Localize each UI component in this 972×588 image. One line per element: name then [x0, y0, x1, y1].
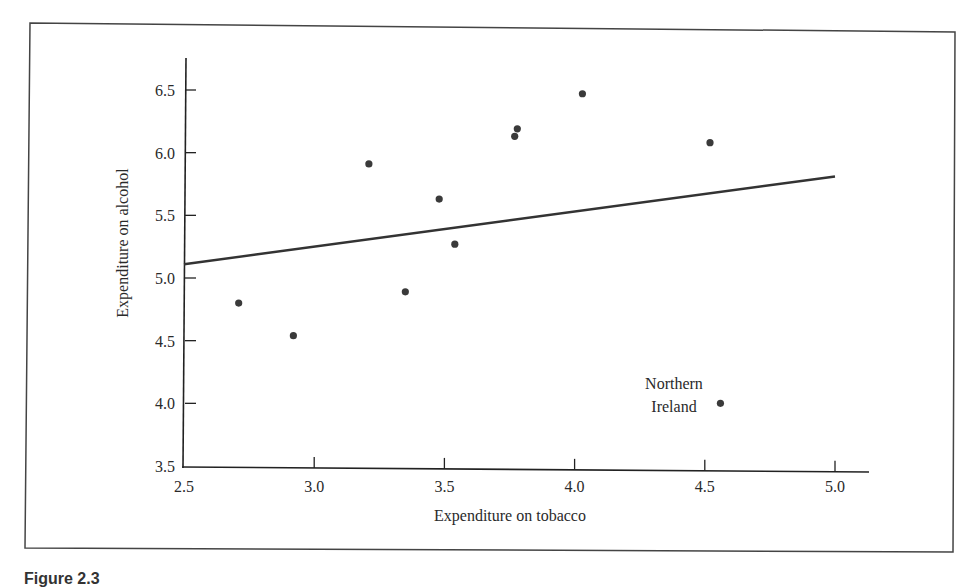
data-point [436, 195, 443, 202]
annotation-ireland: Ireland [651, 398, 696, 415]
x-tick-label: 3.0 [304, 478, 324, 495]
x-tick-label: 2.5 [174, 478, 194, 495]
data-point [511, 133, 518, 140]
x-tick-label: 3.5 [434, 478, 454, 495]
y-axis-label: Expenditure on alcohol [114, 168, 132, 318]
data-point [235, 299, 242, 306]
y-tick-label: 4.0 [155, 395, 175, 412]
data-point [365, 160, 372, 167]
x-tick-label: 4.5 [695, 478, 715, 495]
annotation-northern: Northern [645, 375, 703, 392]
x-axis-line [182, 467, 869, 472]
y-tick-label: 4.5 [155, 333, 175, 350]
data-point [514, 125, 521, 132]
y-tick-label: 6.0 [155, 145, 175, 162]
y-tick-label: 5.5 [155, 207, 175, 224]
y-tick-label: 5.0 [155, 270, 175, 287]
tick-marks: 3.54.04.55.05.56.06.52.53.03.54.04.55.0 [155, 82, 845, 495]
x-tick-label: 4.0 [565, 478, 585, 495]
x-tick-label: 5.0 [825, 478, 845, 495]
data-point [706, 139, 713, 146]
regression-line [184, 176, 835, 264]
axes [182, 58, 869, 472]
data-point [579, 90, 586, 97]
data-point [402, 288, 409, 295]
y-tick-label: 6.5 [155, 82, 175, 99]
y-tick-label: 3.5 [155, 458, 175, 475]
fit-line [184, 176, 835, 264]
x-axis-label: Expenditure on tobacco [434, 507, 586, 525]
data-point [451, 241, 458, 248]
figure-caption: Figure 2.3 [24, 570, 100, 588]
data-point-northern-ireland [717, 400, 724, 407]
data-point [290, 332, 297, 339]
